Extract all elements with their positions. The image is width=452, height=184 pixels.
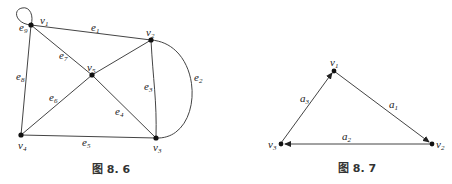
vertex-label-v5: v5 [87, 61, 96, 75]
edge-e5 [21, 135, 156, 138]
vertex-label-v2: v2 [436, 138, 445, 152]
arc-a3 [281, 73, 332, 143]
edge-label-e3: e3 [144, 80, 153, 94]
vertex-label-v2: v2 [146, 26, 155, 40]
vertex-label-v3: v3 [153, 141, 162, 155]
edge-label-e4: e4 [115, 105, 124, 119]
vertex-v2 [430, 142, 435, 147]
vertex-label-v3: v3 [268, 138, 277, 152]
edge-label-e5: e5 [82, 136, 91, 150]
diagram-canvas: v1 v2 v3 v4 v5 e1 e2 e3 e4 e5 e6 e7 e8 e… [0, 0, 452, 184]
figure-8-7-directed-graph: v1 v2 v3 a1 a2 a3 图 8. 7 [268, 56, 445, 175]
arc-label-a2: a2 [342, 130, 352, 144]
arc-label-a3: a3 [300, 92, 310, 106]
edge-label-e1: e1 [91, 21, 99, 35]
vertex-v1 [28, 22, 33, 27]
arc-a1 [334, 71, 429, 142]
edge-e6 [21, 75, 92, 135]
figure-caption-8-6: 图 8. 6 [92, 163, 130, 176]
arc-label-a1: a1 [389, 98, 398, 112]
edge-label-e2: e2 [194, 71, 203, 85]
edge-label-e8: e8 [16, 70, 25, 84]
vertex-v3 [279, 142, 284, 147]
vertex-label-v4: v4 [18, 139, 27, 153]
edge-v5-v2 [92, 40, 151, 75]
vertex-v4 [18, 132, 23, 137]
edge-e2 [151, 40, 192, 138]
vertex-v3 [153, 135, 158, 140]
figure-8-6-undirected-graph: v1 v2 v3 v4 v5 e1 e2 e3 e4 e5 e6 e7 e8 e… [16, 8, 203, 176]
vertex-label-v1: v1 [330, 56, 338, 70]
edge-label-e6: e6 [49, 91, 58, 105]
vertex-label-v1: v1 [40, 14, 48, 28]
figure-caption-8-7: 图 8. 7 [338, 162, 376, 175]
edge-label-e9: e9 [19, 21, 28, 35]
edge-label-e7: e7 [59, 49, 68, 63]
